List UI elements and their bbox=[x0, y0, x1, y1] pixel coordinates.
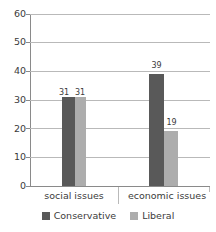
gridline-40 bbox=[30, 71, 210, 72]
gridline-10 bbox=[30, 157, 210, 158]
bar-social-issues-conservative[interactable] bbox=[62, 97, 75, 186]
legend-label-conservative: Conservative bbox=[54, 211, 116, 221]
legend-swatch-conservative-icon bbox=[42, 212, 50, 220]
legend-item-conservative[interactable]: Conservative bbox=[42, 211, 116, 221]
bar-economic-issues-liberal[interactable] bbox=[164, 131, 178, 186]
bar-economic-issues-conservative[interactable] bbox=[149, 74, 164, 186]
legend-item-liberal[interactable]: Liberal bbox=[130, 211, 174, 221]
bar-value-social-issues-conservative: 31 bbox=[56, 89, 72, 97]
x-axis-category-divider bbox=[118, 187, 119, 204]
bar-value-economic-issues-liberal: 19 bbox=[163, 119, 180, 127]
legend: Conservative Liberal bbox=[0, 211, 216, 221]
gridline-50 bbox=[30, 42, 210, 43]
y-axis-tick-label-50: 50 bbox=[0, 37, 26, 47]
y-axis-tick-label-40: 40 bbox=[0, 66, 26, 76]
bar-value-social-issues-liberal: 31 bbox=[72, 89, 88, 97]
bar-social-issues-liberal[interactable] bbox=[75, 97, 86, 186]
y-axis-tick-label-20: 20 bbox=[0, 124, 26, 134]
y-axis-tick-label-30: 30 bbox=[0, 95, 26, 105]
y-axis-tick-label-60: 60 bbox=[0, 9, 26, 19]
x-axis: social issues economic issues bbox=[30, 187, 210, 207]
gridline-20 bbox=[30, 128, 210, 129]
gridline-60 bbox=[30, 14, 210, 15]
legend-label-liberal: Liberal bbox=[142, 211, 174, 221]
legend-swatch-liberal-icon bbox=[130, 212, 138, 220]
y-axis-tick-label-10: 10 bbox=[0, 152, 26, 162]
x-axis-label-social-issues: social issues bbox=[44, 190, 104, 201]
x-axis-end-tick bbox=[209, 187, 210, 192]
x-axis-label-economic-issues: economic issues bbox=[127, 190, 207, 201]
gridline-30 bbox=[30, 100, 210, 101]
y-axis-tick-label-0: 0 bbox=[0, 181, 26, 191]
plot-area: 31 31 39 19 bbox=[30, 14, 210, 186]
bar-value-economic-issues-conservative: 39 bbox=[148, 62, 165, 70]
bar-chart: 60 50 40 30 20 10 0 31 31 39 19 social i… bbox=[0, 0, 216, 232]
